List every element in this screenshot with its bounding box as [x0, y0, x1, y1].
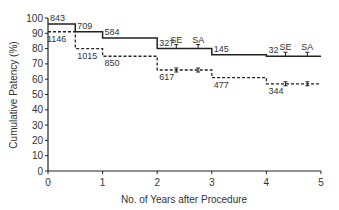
- at-risk-count: 709: [77, 21, 92, 31]
- at-risk-count: 145: [214, 44, 229, 54]
- y-tick-label: 70: [32, 58, 44, 69]
- at-risk-count: 477: [214, 80, 229, 90]
- at-risk-count: 850: [105, 58, 120, 68]
- y-tick-label: 20: [32, 135, 44, 146]
- at-risk-count: 1146: [47, 34, 66, 44]
- error-marker-label: SA: [192, 35, 204, 45]
- error-marker-label: SA: [301, 42, 313, 52]
- y-tick-label: 0: [37, 166, 43, 177]
- y-tick-label: 50: [32, 89, 44, 100]
- x-tick-label: 2: [154, 177, 160, 188]
- y-tick-label: 60: [32, 74, 44, 85]
- x-tick-label: 1: [100, 177, 106, 188]
- at-risk-count: 344: [268, 86, 283, 96]
- y-axis-label: Cumulative Patency (%): [8, 41, 19, 148]
- y-tick-label: 80: [32, 43, 44, 54]
- x-tick-label: 0: [45, 177, 51, 188]
- at-risk-count: 843: [50, 13, 65, 23]
- kaplan-meier-chart: 0102030405060708090100012345 84370958432…: [0, 0, 339, 210]
- x-tick-label: 4: [264, 177, 270, 188]
- at-risk-count: 584: [105, 27, 120, 37]
- at-risk-count: 617: [159, 72, 174, 82]
- y-tick-label: 90: [32, 28, 44, 39]
- y-tick-label: 10: [32, 150, 44, 161]
- at-risk-count: 1015: [77, 51, 97, 61]
- error-marker-label: SE: [170, 35, 182, 45]
- error-marker-label: SE: [280, 42, 292, 52]
- y-tick-label: 40: [32, 104, 44, 115]
- x-tick-label: 3: [209, 177, 215, 188]
- x-axis-label: No. of Years after Procedure: [121, 194, 248, 205]
- y-tick-label: 30: [32, 120, 44, 131]
- at-risk-count: 32: [268, 45, 278, 55]
- x-tick-label: 5: [318, 177, 324, 188]
- y-tick-label: 100: [26, 13, 43, 24]
